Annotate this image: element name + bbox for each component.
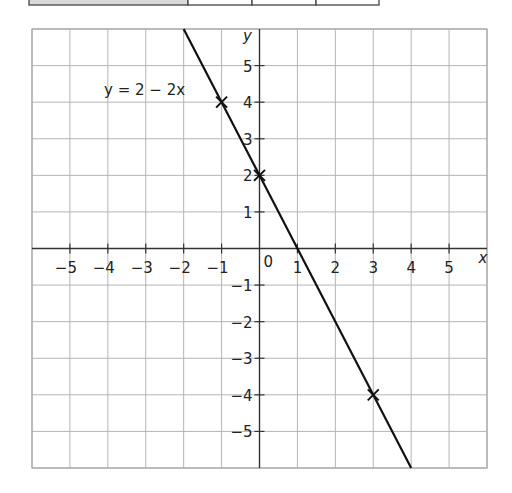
table-cell <box>29 0 188 5</box>
y-tick-label: −3 <box>230 350 252 368</box>
y-tick-label: 1 <box>243 204 253 222</box>
y-tick-label: −4 <box>230 387 252 405</box>
x-tick-label: −5 <box>55 259 77 277</box>
axes <box>32 29 487 468</box>
graph-figure: −5−4−3−2−112345−5−4−3−2−1123450xy y = 2 … <box>0 0 512 493</box>
x-tick-label: −4 <box>93 259 115 277</box>
equation-label: y = 2 − 2x <box>104 81 185 99</box>
x-tick-label: 3 <box>368 259 378 277</box>
origin-label: 0 <box>264 253 274 271</box>
annotations: y = 2 − 2x <box>104 81 185 99</box>
y-axis-label: y <box>242 27 253 45</box>
x-tick-label: 1 <box>293 259 303 277</box>
coordinate-grid: −5−4−3−2−112345−5−4−3−2−1123450xy y = 2 … <box>0 0 512 493</box>
x-tick-label: −1 <box>207 259 229 277</box>
table-cell <box>316 0 379 5</box>
y-tick-label: −1 <box>230 277 252 295</box>
y-tick-label: 2 <box>243 167 253 185</box>
x-tick-label: −2 <box>169 259 191 277</box>
table-strip <box>29 0 379 5</box>
x-axis-label: x <box>478 249 488 267</box>
x-tick-label: 5 <box>444 259 454 277</box>
y-tick-label: 5 <box>243 58 253 76</box>
x-tick-label: 4 <box>406 259 416 277</box>
x-tick-label: 2 <box>331 259 341 277</box>
table-cell <box>188 0 252 5</box>
table-cell <box>252 0 316 5</box>
y-tick-label: −2 <box>230 314 252 332</box>
x-tick-label: −3 <box>131 259 153 277</box>
y-tick-label: 4 <box>243 94 253 112</box>
y-tick-label: −5 <box>230 423 252 441</box>
